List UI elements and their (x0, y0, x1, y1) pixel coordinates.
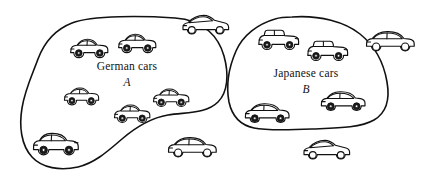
car-icon-a5 (114, 105, 149, 122)
car-icon-b1 (259, 30, 299, 49)
car-icon-o4 (304, 140, 350, 159)
set-b-label: Japanese cars (274, 67, 339, 80)
car-icon-o2 (367, 32, 415, 51)
car-icon-b4 (321, 92, 365, 111)
car-icon-a1 (71, 39, 108, 57)
car-icon-a6 (34, 133, 79, 154)
car-icon-b3 (245, 104, 289, 123)
car-icon-a2 (119, 34, 156, 52)
car-icon-b2 (308, 41, 348, 60)
set-b-letter: B (302, 83, 309, 95)
car-icon-o1 (183, 15, 229, 34)
car-icon-a3 (64, 88, 98, 105)
car-icon-o3 (169, 138, 217, 157)
car-icon-a4 (153, 89, 188, 106)
diagram-canvas: German cars A Japanese cars B (0, 0, 424, 181)
set-a-letter: A (122, 76, 131, 88)
set-diagram-figure: German cars A Japanese cars B (0, 0, 424, 181)
set-a-label: German cars (97, 60, 158, 72)
